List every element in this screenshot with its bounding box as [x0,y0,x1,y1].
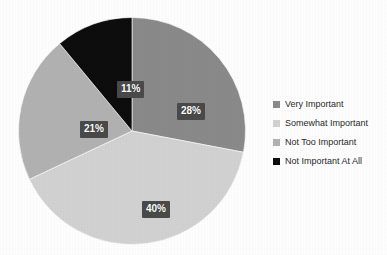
slice-label-not-important-at-all: 11% [117,81,144,98]
legend-item-label: Somewhat Important [285,118,368,129]
legend-item[interactable]: Somewhat Important [273,116,385,131]
legend-item[interactable]: Not Too Important [273,135,385,150]
pie-chart-figure: 28% 40% 21% 11% Very ImportantSomewhat I… [0,0,387,255]
legend-swatch-icon [273,120,280,127]
legend-swatch-icon [273,139,280,146]
slice-label-somewhat-important: 40% [142,201,170,218]
legend-item[interactable]: Very Important [273,97,385,112]
legend-swatch-icon [273,158,280,165]
pie-slice-group [18,18,245,245]
pie-chart-svg [18,17,246,245]
pie-slice [132,18,246,153]
legend-item[interactable]: Not Important At All [273,154,385,169]
legend-item-label: Not Important At All [285,156,362,167]
pie-chart-plot-area: 28% 40% 21% 11% [18,17,246,245]
legend-item-label: Not Too Important [285,137,356,148]
slice-label-very-important: 28% [177,103,205,120]
chart-legend: Very ImportantSomewhat ImportantNot Too … [273,97,385,173]
legend-item-label: Very Important [285,99,344,110]
legend-swatch-icon [273,101,280,108]
slice-label-not-too-important: 21% [80,121,108,138]
